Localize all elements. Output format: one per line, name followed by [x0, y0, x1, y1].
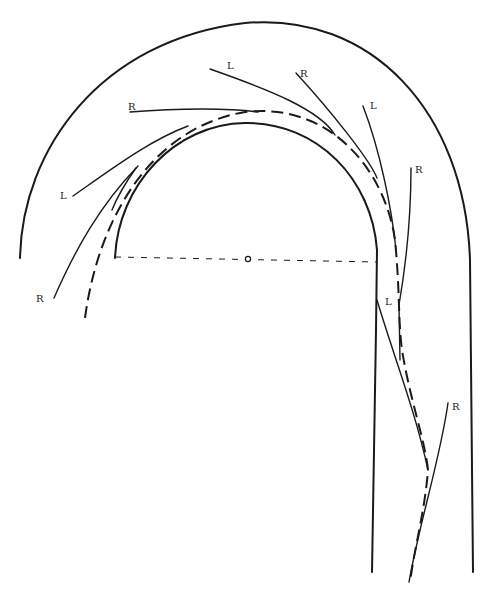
label-r-right: R	[415, 164, 423, 175]
label-r-left: R	[36, 293, 44, 304]
label-r-upper-left: R	[128, 101, 136, 112]
tangent-r-right	[399, 168, 411, 360]
label-l-top: L	[227, 60, 234, 71]
track-diagram: R L R L R L R L R	[0, 0, 499, 590]
tangent-r-top	[296, 73, 377, 178]
tangent-l-left-inner	[112, 168, 136, 210]
tangent-r-left	[54, 166, 138, 298]
label-r-lower-right: R	[452, 401, 460, 412]
label-l-upper-right: L	[370, 100, 377, 111]
diagram-canvas: R L R L R L R L R	[0, 0, 499, 590]
inner-track-boundary	[115, 123, 377, 572]
label-l-lower-right: L	[385, 296, 392, 307]
label-l-left: L	[60, 190, 67, 201]
tangent-r-upper-left	[130, 109, 258, 112]
label-r-top: R	[300, 68, 308, 79]
center-point-marker	[245, 256, 250, 261]
tangent-l-left	[73, 126, 188, 196]
tangent-r-lower-right	[409, 403, 448, 582]
tangent-l-lower-right	[377, 300, 428, 470]
tangent-l-upper-right	[363, 106, 396, 250]
